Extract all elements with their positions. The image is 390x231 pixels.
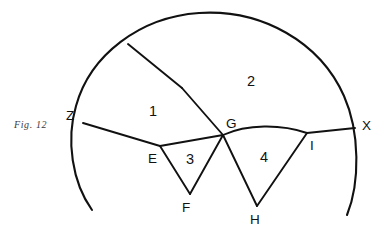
figure-12-diagram: Fig. 12 Z X G E F H I 1 2 3 4	[0, 0, 390, 231]
chord-z-to-e	[83, 123, 160, 146]
segment-bend-to-g	[182, 88, 223, 135]
region-label-4: 4	[260, 149, 268, 165]
chord-i-to-x	[307, 128, 355, 133]
circle-outer-arc	[71, 13, 356, 215]
vertex-label-Z: Z	[66, 108, 74, 123]
geometry-canvas: Z X G E F H I 1 2 3 4	[0, 0, 390, 231]
vertex-label-E: E	[148, 151, 157, 166]
vertex-label-G: G	[226, 116, 237, 131]
segment-f-to-g	[190, 135, 223, 194]
segment-top-to-bend	[128, 44, 182, 88]
segment-g-to-h	[223, 135, 257, 206]
region-label-1: 1	[149, 103, 157, 119]
vertex-label-I: I	[310, 138, 314, 153]
segment-h-to-i	[257, 133, 307, 206]
vertex-label-X: X	[362, 118, 371, 133]
vertex-label-H: H	[250, 212, 260, 227]
vertex-label-F: F	[182, 200, 190, 215]
chord-e-to-g	[160, 135, 223, 146]
region-label-2: 2	[247, 73, 255, 89]
region-label-3: 3	[186, 151, 194, 167]
